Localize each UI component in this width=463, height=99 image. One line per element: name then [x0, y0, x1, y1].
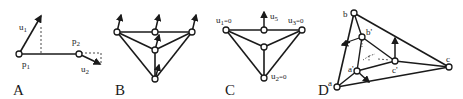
panel-b: B	[114, 15, 196, 98]
label-a-prime: a'	[348, 64, 354, 74]
dashed-hidden	[369, 54, 375, 56]
label-u1-zero: u1=0	[216, 15, 232, 27]
point-p1	[16, 51, 22, 57]
edge-left-bottom	[226, 30, 264, 78]
node-center	[261, 44, 267, 50]
dashed-hidden	[378, 59, 390, 60]
edge-b-c	[354, 13, 449, 67]
panel-label-b: B	[115, 82, 125, 98]
figure-canvas: u1 p1 p2 u2 A B	[0, 0, 463, 99]
vertex-b-prime	[359, 34, 365, 40]
label-u5: u5	[270, 11, 279, 23]
edge-left-bottom	[117, 32, 155, 79]
node-u2	[261, 75, 267, 81]
node	[189, 29, 195, 35]
label-u2: u2	[81, 64, 90, 76]
edge-b'-a'	[357, 37, 362, 71]
point-p2	[76, 51, 82, 57]
label-u1: u1	[19, 22, 28, 34]
vertex-a-prime	[354, 68, 360, 74]
node	[152, 29, 158, 35]
edge-b'-c'	[362, 37, 395, 61]
node-u5	[261, 27, 267, 33]
edge-right-center	[155, 32, 192, 50]
edge-right-bottom	[264, 30, 302, 78]
label-c-prime: c'	[392, 65, 398, 75]
label-b: b	[343, 9, 348, 19]
vertex-c	[446, 64, 452, 70]
label-b-prime: b'	[366, 27, 373, 37]
label-c: c	[446, 54, 450, 64]
edge-right-center	[264, 30, 302, 47]
node	[152, 47, 158, 53]
edge-left-center	[117, 32, 155, 50]
vertex-b	[351, 10, 357, 16]
panel-label-c: C	[225, 82, 235, 98]
panel-label-a: A	[13, 82, 24, 98]
node-u1	[223, 27, 229, 33]
label-u3-zero: u3=0	[288, 15, 304, 27]
edge-right-bottom	[155, 32, 192, 79]
node	[152, 76, 158, 82]
dashed-projection-u2	[81, 53, 101, 63]
edge-left-center	[226, 30, 264, 47]
panel-a: u1 p1 p2 u2 A	[13, 16, 101, 98]
node-u3	[299, 27, 305, 33]
label-u2-zero: u2=0	[271, 71, 287, 83]
vertex-c-prime	[392, 58, 398, 64]
panel-label-d: D	[318, 82, 329, 98]
dashed-hidden	[363, 56, 369, 60]
panel-d: a b c a' b' c' D	[318, 9, 452, 98]
vertex-a	[334, 84, 340, 90]
node	[114, 29, 120, 35]
panel-c: u1=0 u5 u3=0 u2=0 C	[216, 11, 305, 98]
label-p1: p1	[22, 59, 31, 71]
edge-a'-c'	[357, 61, 395, 71]
label-p2: p2	[72, 36, 81, 48]
